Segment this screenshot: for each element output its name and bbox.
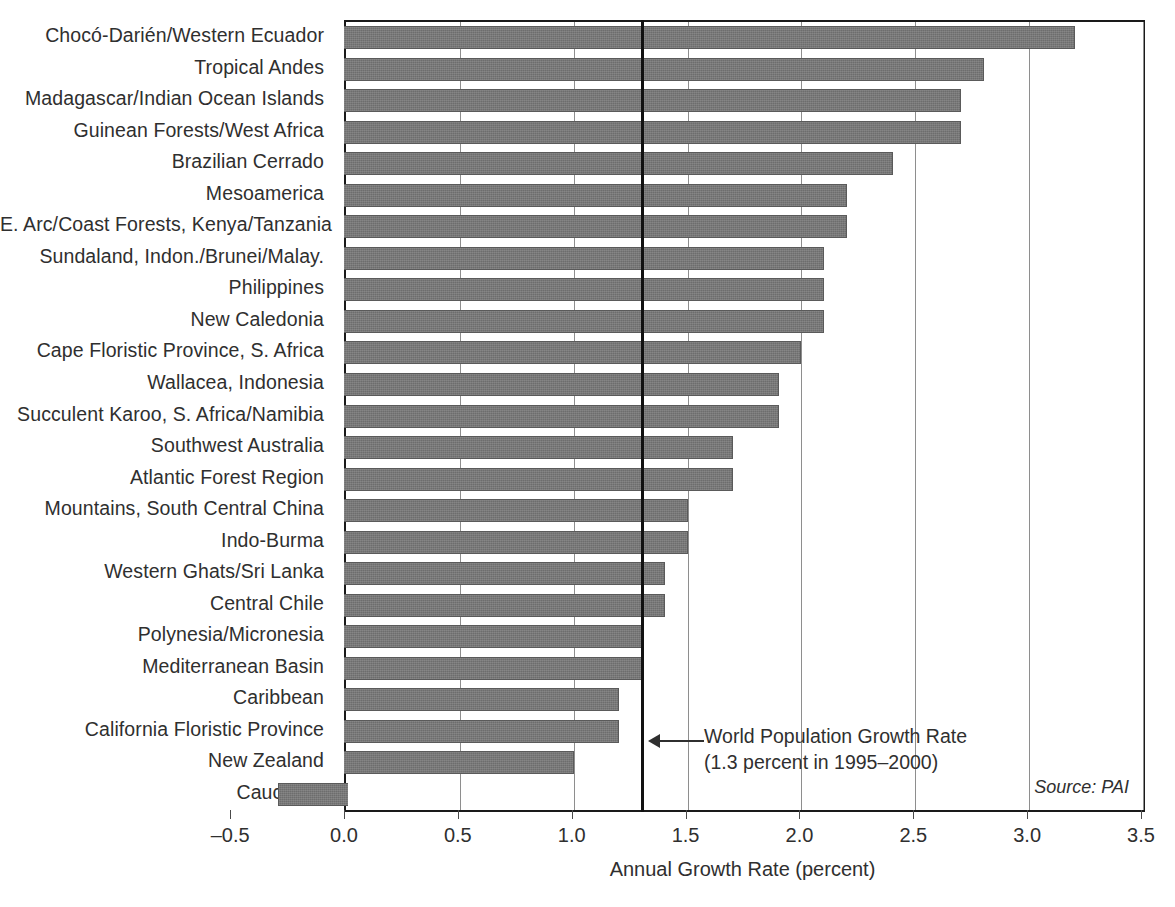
- source-note: Source: PAI: [1034, 777, 1129, 798]
- category-label: Atlantic Forest Region: [0, 468, 324, 488]
- x-tick: [913, 810, 914, 819]
- category-label: Indo-Burma: [0, 531, 324, 551]
- x-tick-label: 3.5: [1101, 824, 1175, 847]
- bar: [344, 657, 642, 680]
- x-tick-label: 0.0: [304, 824, 384, 847]
- category-label: Mountains, South Central China: [0, 499, 324, 519]
- bar: [344, 184, 847, 207]
- category-label: Mesoamerica: [0, 184, 324, 204]
- bar: [344, 751, 574, 774]
- bar: [344, 531, 688, 554]
- bar: [344, 436, 733, 459]
- x-tick: [572, 810, 573, 819]
- category-label: Western Ghats/Sri Lanka: [0, 562, 324, 582]
- bar: [344, 468, 733, 491]
- gridline: [1143, 22, 1144, 810]
- x-tick-label: 2.0: [759, 824, 839, 847]
- category-label: Guinean Forests/West Africa: [0, 121, 324, 141]
- plot-area: World Population Growth Rate (1.3 percen…: [344, 20, 1145, 812]
- category-label: Cape Floristic Province, S. Africa: [0, 341, 324, 361]
- category-label: Chocó-Darién/Western Ecuador: [0, 26, 324, 46]
- bar: [344, 720, 619, 743]
- category-label: Central Chile: [0, 594, 324, 614]
- bar-chart-figure: Chocó-Darién/Western EcuadorTropical And…: [0, 0, 1175, 907]
- arrow-shaft-icon: [656, 740, 704, 742]
- x-tick-label: –0.5: [190, 824, 270, 847]
- x-axis-title: Annual Growth Rate (percent): [344, 858, 1141, 881]
- bar: [344, 594, 665, 617]
- x-tick-label: 1.5: [646, 824, 726, 847]
- category-label: Mediterranean Basin: [0, 657, 324, 677]
- category-label: California Floristic Province: [0, 720, 324, 740]
- bar: [344, 152, 893, 175]
- category-label-column: Chocó-Darién/Western EcuadorTropical And…: [0, 20, 332, 808]
- bar: [344, 58, 984, 81]
- x-tick: [458, 810, 459, 819]
- x-tick-label: 3.0: [987, 824, 1067, 847]
- x-tick: [230, 810, 231, 819]
- annotation-line-1: World Population Growth Rate: [704, 724, 1174, 750]
- category-label: New Caledonia: [0, 310, 324, 330]
- bar: [344, 278, 824, 301]
- x-tick-label: 0.5: [418, 824, 498, 847]
- bar: [344, 215, 847, 238]
- category-label: Caucasus: [0, 783, 324, 803]
- bar: [278, 783, 348, 806]
- annotation-arrow-icon: [648, 734, 704, 748]
- x-tick: [799, 810, 800, 819]
- bar: [344, 688, 619, 711]
- x-tick-label: 1.0: [532, 824, 612, 847]
- category-label: Caribbean: [0, 688, 324, 708]
- x-tick: [1141, 810, 1142, 819]
- category-label: Philippines: [0, 278, 324, 298]
- plot-inner: World Population Growth Rate (1.3 percen…: [346, 22, 1143, 810]
- bar: [344, 562, 665, 585]
- x-tick: [344, 810, 345, 819]
- x-tick: [1027, 810, 1028, 819]
- x-tick-label: 2.5: [873, 824, 953, 847]
- bar: [344, 26, 1075, 49]
- category-label: Wallacea, Indonesia: [0, 373, 324, 393]
- bar: [344, 625, 642, 648]
- category-label: Sundaland, Indon./Brunei/Malay.: [0, 247, 324, 267]
- bar: [344, 121, 961, 144]
- annotation-text: World Population Growth Rate (1.3 percen…: [704, 724, 1174, 775]
- bar: [344, 247, 824, 270]
- annotation-line-2: (1.3 percent in 1995–2000): [704, 750, 1174, 776]
- category-label: New Zealand: [0, 751, 324, 771]
- bar: [344, 89, 961, 112]
- category-label: Brazilian Cerrado: [0, 152, 324, 172]
- bar: [344, 499, 688, 522]
- category-label: Succulent Karoo, S. Africa/Namibia: [0, 405, 324, 425]
- gridline: [1029, 22, 1030, 810]
- bar: [344, 405, 779, 428]
- category-label: Madagascar/Indian Ocean Islands: [0, 89, 324, 109]
- bar: [344, 341, 801, 364]
- world-growth-rate-reference-line: [641, 20, 644, 812]
- category-label: Southwest Australia: [0, 436, 324, 456]
- category-label: Tropical Andes: [0, 58, 324, 78]
- x-tick: [686, 810, 687, 819]
- bar: [344, 373, 779, 396]
- bar: [344, 310, 824, 333]
- category-label: E. Arc/Coast Forests, Kenya/Tanzania: [0, 215, 324, 235]
- category-label: Polynesia/Micronesia: [0, 625, 324, 645]
